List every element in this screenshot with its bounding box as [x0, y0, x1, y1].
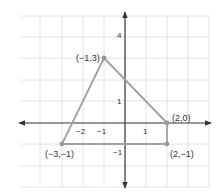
- x-tick-label: −1: [97, 127, 107, 136]
- vertex-label: (2,0): [172, 113, 191, 123]
- vertex-point: [102, 56, 107, 61]
- vertex-point: [60, 142, 65, 147]
- grid: [20, 16, 210, 187]
- x-tick-label: −2: [76, 127, 86, 136]
- vertex-point: [165, 142, 170, 147]
- vertex-label: (−1,3): [76, 53, 100, 63]
- y-tick-label: 1: [117, 97, 122, 106]
- x-tick-label: 1: [143, 127, 148, 136]
- coordinate-plane: 4 1 −1 −2 −1 1 (−1,3) (2,0) (2,−1) (−3,−…: [0, 0, 218, 193]
- vertex-label: (−3,−1): [45, 149, 74, 159]
- vertex-point: [165, 121, 170, 126]
- y-tick-label: −1: [113, 148, 123, 157]
- vertex-label: (2,−1): [170, 149, 194, 159]
- y-tick-label: 4: [117, 31, 122, 40]
